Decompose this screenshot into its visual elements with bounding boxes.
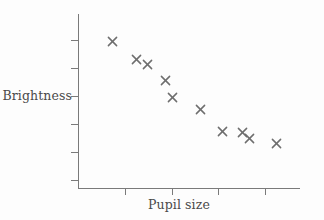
plot-area [0, 0, 324, 220]
y-axis-tick [71, 180, 78, 181]
data-point-marker [142, 59, 153, 70]
y-axis-tick [71, 96, 78, 97]
x-axis-tick [172, 188, 173, 195]
x-axis-tick [265, 188, 266, 195]
y-axis-tick [71, 68, 78, 69]
y-axis-line [78, 14, 79, 189]
y-axis-tick [71, 124, 78, 125]
data-point-marker [217, 126, 228, 137]
data-point-marker [237, 127, 248, 138]
data-point-marker [167, 92, 178, 103]
y-axis-label: Brightness [2, 88, 72, 103]
data-point-marker [244, 133, 255, 144]
x-axis-tick [218, 188, 219, 195]
x-axis-tick [125, 188, 126, 195]
data-point-marker [271, 138, 282, 149]
data-point-marker [195, 104, 206, 115]
y-axis-tick [71, 40, 78, 41]
x-axis-line [78, 188, 300, 189]
data-point-marker [160, 75, 171, 86]
y-axis-tick [71, 152, 78, 153]
data-point-marker [131, 54, 142, 65]
scatter-plot-figure: Brightness Pupil size [0, 0, 324, 220]
data-point-marker [107, 36, 118, 47]
x-axis-label: Pupil size [0, 197, 324, 212]
